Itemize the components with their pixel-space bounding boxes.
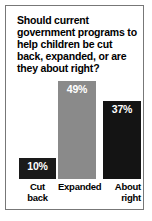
bar-value-about-right: 37% xyxy=(103,103,141,115)
bar-label-cut-back-line2: back xyxy=(19,192,56,203)
bar-label-about-right-line1: About xyxy=(103,181,141,192)
bar-label-cut-back-line1: Cut xyxy=(19,181,56,192)
bar-value-cut-back: 10% xyxy=(19,160,56,172)
bar-label-expanded-line1: Expanded xyxy=(58,181,96,192)
bar-group-cut-back: 10% Cut back xyxy=(19,158,56,179)
bar-label-about-right: About right xyxy=(103,179,141,203)
plot-area: 10% Cut back 49% Expanded 37% About righ… xyxy=(6,6,143,209)
bar-expanded: 49% xyxy=(58,81,96,179)
bar-value-expanded: 49% xyxy=(58,83,96,95)
chart-frame: Should current government programs to he… xyxy=(5,5,144,210)
bar-label-about-right-line2: right xyxy=(103,192,141,203)
bar-about-right: 37% xyxy=(103,101,141,179)
bar-cut-back: 10% xyxy=(19,158,56,179)
bar-group-about-right: 37% About right xyxy=(103,101,141,179)
bar-label-expanded: Expanded xyxy=(58,179,96,192)
bar-label-cut-back: Cut back xyxy=(19,179,56,203)
bar-group-expanded: 49% Expanded xyxy=(58,81,96,179)
